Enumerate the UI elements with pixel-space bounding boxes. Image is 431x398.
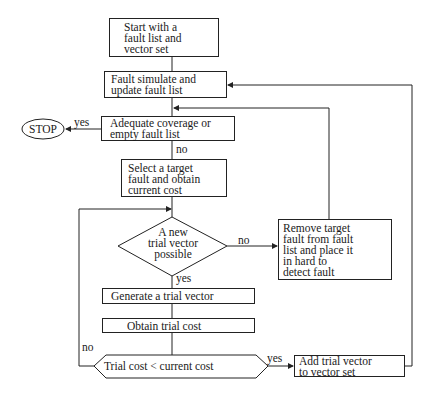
obtain-trial-cost-box: Obtain trial cost bbox=[102, 318, 255, 333]
stop-label: STOP bbox=[22, 123, 64, 135]
generate-trial-vector-box: Generate a trial vector bbox=[102, 288, 255, 304]
adequate-no-label: no bbox=[176, 143, 188, 155]
compare-yes-label: yes bbox=[267, 352, 282, 364]
fault-simulate-box: Fault simulate and update fault list bbox=[104, 71, 227, 98]
start-box: Start with a fault list and vector set bbox=[109, 18, 219, 57]
adequate-coverage-box: Adequate coverage or empty fault list bbox=[101, 116, 235, 141]
add-trial-vector-box: Add trial vector to vector set bbox=[294, 355, 405, 377]
remove-target-box: Remove target fault from fault list and … bbox=[278, 219, 392, 280]
connector-lines bbox=[0, 0, 431, 398]
select-target-box: Select a target fault and obtain current… bbox=[121, 159, 227, 197]
compare-cost-label: Trial cost < current cost bbox=[104, 360, 214, 372]
new-trial-yes-label: yes bbox=[176, 272, 191, 284]
new-trial-vector-label: A new trial vector possible bbox=[135, 227, 211, 260]
adequate-yes-label: yes bbox=[74, 116, 89, 128]
new-trial-no-label: no bbox=[238, 234, 250, 246]
compare-no-label: no bbox=[82, 341, 94, 353]
